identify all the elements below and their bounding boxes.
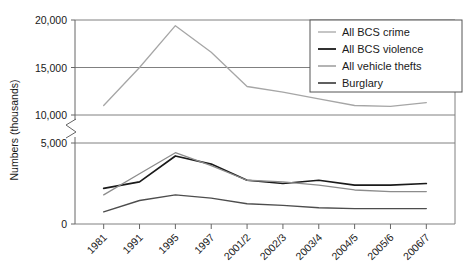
- legend-label-burglary: Burglary: [342, 77, 383, 89]
- chart-legend: All BCS crimeAll BCS violenceAll vehicle…: [310, 20, 462, 92]
- x-tick-label-2004-5: 2004/5: [329, 231, 360, 262]
- x-tick-label-1995: 1995: [156, 231, 181, 256]
- x-tick-label-2002-3: 2002/3: [257, 231, 288, 262]
- legend-label-all-vehicle-thefts: All vehicle thefts: [342, 60, 422, 72]
- legend-label-all-bcs-violence: All BCS violence: [342, 43, 423, 55]
- y-axis-title: Numbers (thousands): [8, 80, 20, 181]
- x-tick-label-1981: 1981: [84, 231, 109, 256]
- x-tick-label-2001-2: 2001/2: [221, 231, 252, 262]
- x-tick-label-2005-6: 2005/6: [365, 231, 396, 262]
- line-chart: 05,00010,00015,00020,000 198119911995199…: [0, 0, 472, 270]
- x-tick-label-2003-4: 2003/4: [293, 231, 324, 262]
- axis-break-mask: [73, 120, 77, 137]
- chart-canvas: 05,00010,00015,00020,000 198119911995199…: [0, 0, 472, 270]
- y-tick-label-20000: 20,000: [35, 14, 67, 26]
- y-axis-tick-labels: 05,00010,00015,00020,000: [35, 14, 67, 230]
- series-line-all-bcs-violence: [104, 156, 427, 188]
- x-axis-tick-labels: 19811991199519972001/22002/32003/42004/5…: [84, 231, 432, 262]
- y-axis-break-icon: [66, 119, 77, 138]
- y-tick-label-5000: 5,000: [41, 137, 67, 149]
- legend-label-all-bcs-crime: All BCS crime: [342, 26, 410, 38]
- y-tick-label-10000: 10,000: [35, 109, 67, 121]
- x-tick-label-1991: 1991: [120, 231, 145, 256]
- x-axis-ticks: [104, 224, 427, 229]
- x-tick-label-1997: 1997: [192, 231, 217, 256]
- series-line-burglary: [104, 195, 427, 212]
- y-tick-label-0: 0: [61, 218, 67, 230]
- x-tick-label-2006-7: 2006/7: [401, 231, 432, 262]
- y-tick-label-15000: 15,000: [35, 62, 67, 74]
